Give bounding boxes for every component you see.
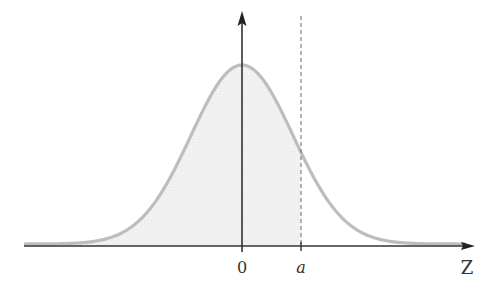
marker-label: a [296,258,306,277]
x-axis-label: Z [461,257,474,278]
normal-distribution-diagram: 0 a Z [0,0,491,292]
origin-label: 0 [237,258,247,277]
shaded-area [24,65,301,246]
x-axis-arrow-icon [461,242,475,250]
